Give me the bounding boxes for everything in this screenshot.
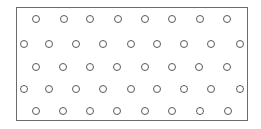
circle-icon (195, 63, 203, 71)
circle-icon (113, 63, 121, 71)
circle-icon (60, 15, 68, 23)
circle-icon (196, 15, 204, 23)
circle-icon (168, 63, 176, 71)
circle-icon (223, 63, 231, 71)
circle-icon (141, 15, 149, 23)
circle-icon (168, 15, 176, 23)
circle-icon (224, 107, 232, 115)
diagram-frame (16, 7, 248, 121)
circle-icon (99, 85, 107, 93)
circle-icon (45, 85, 53, 93)
circle-icon (168, 107, 176, 115)
circle-icon (127, 40, 135, 48)
circle-icon (113, 107, 121, 115)
circle-icon (141, 63, 149, 71)
circle-icon (59, 107, 67, 115)
circle-icon (20, 85, 28, 93)
circle-icon (236, 40, 244, 48)
circle-icon (32, 15, 40, 23)
circle-icon (153, 85, 161, 93)
circle-icon (72, 85, 80, 93)
circle-icon (45, 40, 53, 48)
circle-icon (207, 85, 215, 93)
circle-icon (223, 15, 231, 23)
circle-icon (180, 40, 188, 48)
circle-icon (236, 85, 244, 93)
circle-icon (99, 40, 107, 48)
circle-icon (141, 107, 149, 115)
circle-icon (86, 63, 94, 71)
circle-icon (72, 40, 80, 48)
circle-icon (32, 63, 40, 71)
circle-icon (114, 15, 122, 23)
circle-icon (153, 40, 161, 48)
circle-icon (86, 107, 94, 115)
circle-icon (86, 15, 94, 23)
circle-icon (207, 40, 215, 48)
circle-icon (127, 85, 135, 93)
circle-icon (32, 107, 40, 115)
circle-icon (59, 63, 67, 71)
circle-icon (196, 107, 204, 115)
circle-icon (180, 85, 188, 93)
circle-icon (20, 40, 28, 48)
